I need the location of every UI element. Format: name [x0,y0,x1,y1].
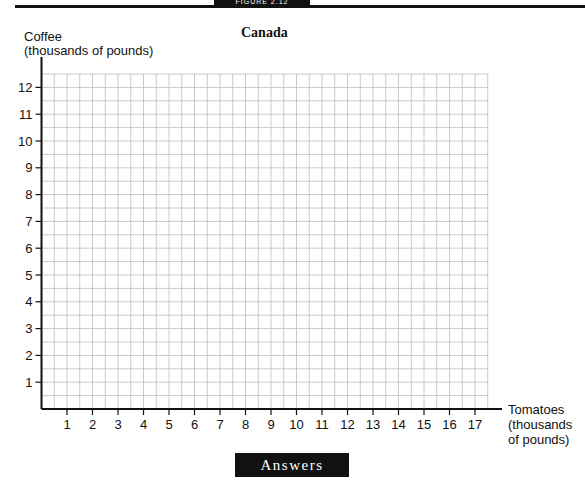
x-tick-label: 1 [63,417,70,432]
x-tick-label: 11 [315,417,329,432]
y-axis-ticks: 123456789101112 [18,80,41,390]
x-tick-label: 10 [289,417,303,432]
x-tick-label: 6 [191,417,198,432]
x-tick-label: 12 [340,417,354,432]
x-tick-label: 13 [366,417,380,432]
y-tick-label: 10 [18,134,32,149]
y-tick-label: 3 [25,321,32,336]
y-tick-label: 2 [25,348,32,363]
y-tick-label: 5 [25,268,32,283]
y-tick-label: 6 [25,241,32,256]
y-tick-label: 11 [19,107,33,122]
x-tick-label: 7 [216,417,223,432]
answers-heading: Answers [235,453,349,477]
x-tick-label: 8 [242,417,249,432]
x-tick-label: 2 [89,417,96,432]
x-tick-label: 16 [442,417,456,432]
x-axis-label: Tomatoes (thousands of pounds) [508,402,572,447]
y-tick-label: 8 [25,187,32,202]
chart-plot-area: 1234567891011121314151617 12345678910111… [0,0,585,486]
x-axis-label-line-2: (thousands [508,417,572,432]
x-axis-label-line-3: of pounds) [508,432,572,447]
y-tick-label: 1 [25,375,32,390]
x-tick-label: 5 [165,417,172,432]
x-tick-label: 17 [468,417,482,432]
y-tick-label: 4 [25,294,32,309]
x-tick-label: 15 [417,417,431,432]
x-axis-label-line-1: Tomatoes [508,402,572,417]
y-tick-label: 7 [25,214,32,229]
x-tick-label: 9 [267,417,274,432]
x-tick-label: 14 [391,417,405,432]
y-tick-label: 9 [25,160,32,175]
x-tick-label: 4 [140,417,147,432]
y-tick-label: 12 [18,80,32,95]
grid [42,74,488,409]
x-axis-ticks: 1234567891011121314151617 [63,409,482,432]
axes [42,57,503,409]
x-tick-label: 3 [114,417,121,432]
